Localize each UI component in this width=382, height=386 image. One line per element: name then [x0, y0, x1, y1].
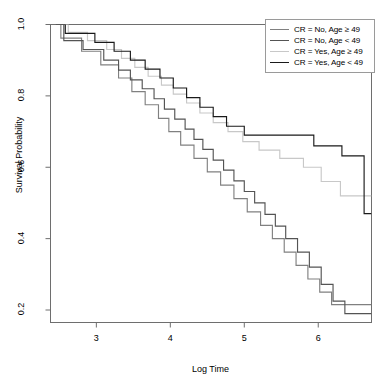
chart-legend: CR = No, Age ≥ 49CR = No, Age < 49CR = Y… [265, 19, 375, 73]
legend-item-0: CR = No, Age ≥ 49 [270, 24, 371, 35]
legend-line-swatch [270, 40, 289, 41]
y-tick-label: 0.6 [16, 155, 26, 177]
legend-line-swatch [270, 29, 289, 30]
y-tick-label: 1.0 [16, 13, 26, 35]
legend-item-label: CR = No, Age < 49 [294, 36, 360, 45]
legend-item-label: CR = No, Age ≥ 49 [294, 25, 360, 34]
y-tick-label: 0.4 [16, 227, 26, 249]
x-tick-label: 3 [84, 333, 108, 343]
x-tick-label: 4 [158, 333, 182, 343]
y-tick-label: 0.2 [16, 298, 26, 320]
y-tick-label: 0.8 [16, 84, 26, 106]
legend-item-label: CR = Yes, Age ≥ 49 [294, 47, 363, 56]
legend-item-3: CR = Yes, Age < 49 [270, 57, 371, 68]
legend-item-2: CR = Yes, Age ≥ 49 [270, 46, 371, 57]
x-axis-label: Log Time [50, 364, 371, 374]
legend-line-swatch [270, 62, 289, 63]
x-tick-label: 6 [306, 333, 330, 343]
chart-figure: Survival Probability Log Time 34560.20.4… [0, 0, 382, 386]
legend-item-1: CR = No, Age < 49 [270, 35, 371, 46]
legend-line-swatch [270, 51, 289, 52]
legend-item-label: CR = Yes, Age < 49 [294, 58, 363, 67]
x-tick-label: 5 [232, 333, 256, 343]
